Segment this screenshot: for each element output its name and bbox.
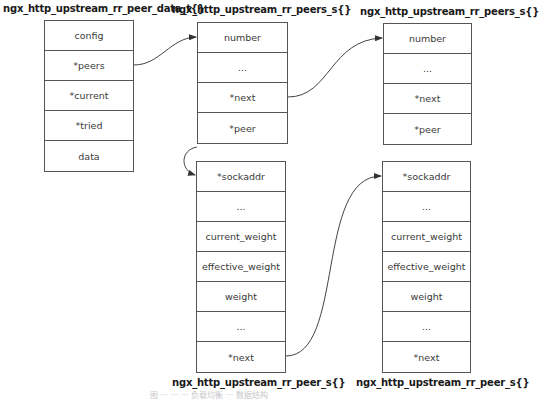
- field-ellipsis: ...: [384, 54, 471, 84]
- struct-title-peer-1: ngx_http_upstream_rr_peer_s{}: [172, 377, 345, 388]
- link-peers-to-peers-1: [134, 37, 196, 65]
- field-tried-pointer: *tried: [45, 111, 133, 141]
- link-next-to-peers-2: [288, 38, 382, 97]
- field-ellipsis: ...: [383, 192, 470, 222]
- struct-peer-2: *sockaddr ... current_weight effective_w…: [382, 161, 471, 373]
- field-next-pointer: *next: [384, 84, 471, 114]
- field-number: number: [198, 23, 287, 53]
- field-current-pointer: *current: [45, 81, 133, 111]
- field-next-pointer: *next: [383, 342, 470, 372]
- figure-caption: 图 ··· ··· ··· 负载均衡 ··· 数据结构: [150, 389, 268, 400]
- struct-title-peers-2: ngx_http_upstream_rr_peers_s{}: [360, 6, 539, 17]
- field-ellipsis: ...: [383, 312, 470, 342]
- struct-peers-1: number ... *next *peer: [197, 22, 288, 144]
- field-current-weight: current_weight: [197, 222, 285, 252]
- field-peer-pointer: *peer: [384, 114, 471, 144]
- field-config: config: [45, 21, 133, 51]
- field-ellipsis: ...: [197, 192, 285, 222]
- field-sockaddr-pointer: *sockaddr: [197, 162, 285, 192]
- field-next-pointer: *next: [197, 342, 285, 372]
- struct-peer-1: *sockaddr ... current_weight effective_w…: [196, 161, 286, 373]
- field-ellipsis: ...: [198, 53, 287, 83]
- field-peers-pointer: *peers: [45, 51, 133, 81]
- field-sockaddr-pointer: *sockaddr: [383, 162, 470, 192]
- struct-title-peers-1: ngx_http_upstream_rr_peers_s{}: [172, 4, 351, 15]
- struct-peer-data: config *peers *current *tried data: [44, 20, 134, 172]
- field-effective-weight: effective_weight: [383, 252, 470, 282]
- field-next-pointer: *next: [198, 83, 287, 113]
- field-ellipsis: ...: [197, 312, 285, 342]
- link-next-to-peer-2: [286, 176, 381, 356]
- field-weight: weight: [197, 282, 285, 312]
- field-peer-pointer: *peer: [198, 113, 287, 143]
- field-effective-weight: effective_weight: [197, 252, 285, 282]
- field-current-weight: current_weight: [383, 222, 470, 252]
- struct-peers-2: number ... *next *peer: [383, 23, 472, 145]
- struct-title-peer-2: ngx_http_upstream_rr_peer_s{}: [356, 377, 529, 388]
- field-number: number: [384, 24, 471, 54]
- field-weight: weight: [383, 282, 470, 312]
- field-data: data: [45, 141, 133, 171]
